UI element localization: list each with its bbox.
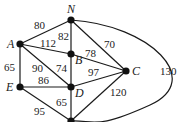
node-label: N [66,2,76,16]
edge-weight-label: 80 [34,19,46,31]
edge-weight-label: 65 [4,61,16,73]
edge-weight-label: 130 [160,65,177,77]
edge-weight-label: 78 [85,47,97,59]
node-c [122,67,129,74]
edge-weight-label: 95 [34,105,46,117]
node-label: C [132,64,141,78]
edge-weight-label: 120 [110,86,127,98]
node-label: E [5,80,14,94]
node-e [16,83,23,90]
node-a [16,40,23,47]
edge-weight-label: 112 [40,37,56,49]
edge-weight-label: 65 [56,96,68,108]
node-n [67,16,74,23]
node-label: B [75,53,83,67]
node-d [67,83,74,90]
node-label: A [6,37,15,51]
weighted-graph: 8011282701306590747897869565120NABCED [0,0,186,122]
edge-weight-label: 86 [38,74,50,86]
node-label: D [74,86,84,100]
edge-weight-label: 97 [88,66,100,78]
edge-weight-label: 82 [58,30,69,42]
edge-weight-label: 70 [104,38,116,50]
edge-weight-label: 90 [32,62,44,74]
node-b [67,50,74,57]
edge-weight-label: 74 [56,62,68,74]
